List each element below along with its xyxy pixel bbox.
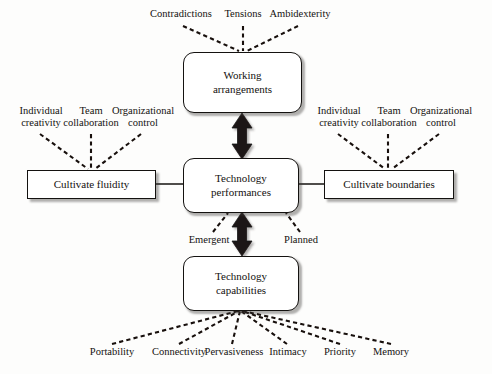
label-planned: Planned	[284, 234, 318, 246]
right-dashed-connectors	[338, 134, 439, 169]
node-working-arrangements[interactable]: Working arrangements	[183, 52, 302, 113]
label-right-team-collaboration: Team collaboration	[361, 105, 416, 130]
label-left-team-collaboration: Team collaboration	[63, 105, 118, 130]
label-ambidexterity: Ambidexterity	[269, 8, 330, 20]
node-cultivate-boundaries-label: Cultivate boundaries	[339, 178, 438, 192]
node-working-arrangements-label: Working arrangements	[209, 69, 276, 97]
label-emergent: Emergent	[189, 234, 230, 246]
label-portability: Portability	[90, 346, 134, 358]
node-cultivate-boundaries[interactable]: Cultivate boundaries	[324, 170, 454, 199]
label-right-organizational-control: Organizational control	[410, 105, 472, 130]
node-technology-capabilities[interactable]: Technology capabilities	[183, 256, 299, 311]
middle-dashed-connectors	[213, 213, 300, 232]
node-cultivate-fluidity[interactable]: Cultivate fluidity	[27, 170, 156, 199]
diagram-canvas: Working arrangements Technology performa…	[0, 0, 492, 374]
label-left-individual-creativity: Individual creativity	[19, 105, 62, 130]
label-connectivity: Connectivity	[152, 346, 206, 358]
label-right-individual-creativity: Individual creativity	[317, 105, 360, 130]
double-arrow-upper	[232, 113, 252, 159]
double-arrow-lower	[232, 212, 252, 256]
label-contradictions: Contradictions	[150, 8, 212, 20]
node-technology-performances-label: Technology performances	[207, 172, 275, 200]
node-cultivate-fluidity-label: Cultivate fluidity	[50, 178, 133, 192]
label-priority: Priority	[324, 346, 356, 358]
label-pervasiveness: Pervasiveness	[205, 346, 264, 358]
label-tensions: Tensions	[224, 8, 261, 20]
bottom-dashed-connectors	[112, 311, 391, 344]
node-technology-capabilities-label: Technology capabilities	[211, 270, 271, 298]
node-technology-performances[interactable]: Technology performances	[183, 158, 299, 213]
label-intimacy: Intimacy	[269, 346, 306, 358]
left-dashed-connectors	[40, 134, 141, 169]
label-left-organizational-control: Organizational control	[112, 105, 174, 130]
label-memory: Memory	[373, 346, 409, 358]
top-dashed-connectors	[183, 26, 298, 51]
